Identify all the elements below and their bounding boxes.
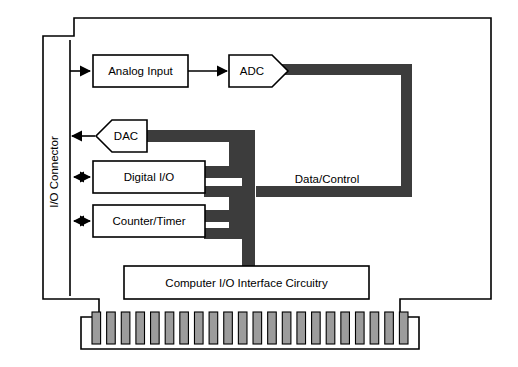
bus-counter-timer-branch (204, 228, 244, 239)
edge-connector-finger (282, 312, 291, 344)
edge-connector-finger (355, 312, 364, 344)
bus-vertical-trunk (242, 130, 255, 270)
edge-connector-finger (209, 312, 218, 344)
edge-connector-finger (224, 312, 233, 344)
edge-connector-finger (385, 312, 394, 344)
block-digital-io[interactable]: Digital I/O (93, 161, 205, 193)
diagram-canvas: I/O Connector (0, 0, 518, 367)
bus-counter-timer-drop (229, 195, 242, 233)
io-connector-label: I/O Connector (48, 136, 60, 208)
edge-connector-finger (136, 312, 145, 344)
counter-timer-label: Counter/Timer (112, 215, 185, 227)
io-connector-label-text: I/O Connector (48, 136, 60, 208)
edge-connector-finger (238, 312, 247, 344)
computer-io-label: Computer I/O Interface Circuitry (165, 277, 328, 289)
edge-connector-finger (253, 312, 262, 344)
block-analog-input[interactable]: Analog Input (93, 55, 188, 87)
edge-connector-finger (107, 312, 116, 344)
edge-connector-finger (194, 312, 203, 344)
edge-connector-finger (341, 312, 350, 344)
bus-dac-drop (229, 130, 242, 170)
edge-connector-finger (92, 312, 101, 344)
block-counter-timer[interactable]: Counter/Timer (93, 205, 205, 237)
edge-connector-finger (326, 312, 335, 344)
edge-connector-finger (399, 312, 408, 344)
edge-connector-finger (370, 312, 379, 344)
bus-digital-io-stub (204, 166, 244, 178)
dac-label: DAC (114, 130, 138, 142)
daq-board-diagram: I/O Connector (0, 0, 518, 367)
edge-connector-finger (165, 312, 174, 344)
edge-connector-finger (151, 312, 160, 344)
edge-connector-finger (297, 312, 306, 344)
edge-connector-finger (121, 312, 130, 344)
analog-input-label: Analog Input (108, 65, 173, 77)
adc-label: ADC (240, 65, 264, 77)
digital-io-label: Digital I/O (124, 171, 175, 183)
block-computer-io-interface[interactable]: Computer I/O Interface Circuitry (124, 266, 369, 299)
edge-connector-finger (180, 312, 189, 344)
data-control-bus-label: Data/Control (295, 173, 360, 185)
edge-connector-finger (268, 312, 277, 344)
edge-connector-finger (312, 312, 321, 344)
